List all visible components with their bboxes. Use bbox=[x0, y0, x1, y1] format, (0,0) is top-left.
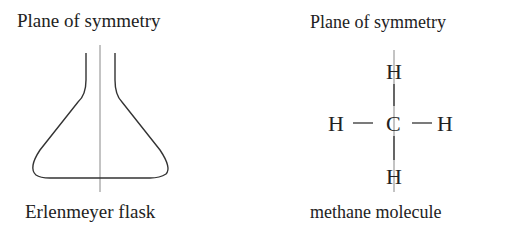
right-title: Plane of symmetry bbox=[310, 13, 446, 31]
atom-c-center: C bbox=[386, 113, 401, 135]
left-caption: Erlenmeyer flask bbox=[25, 202, 155, 221]
flask-diagram bbox=[0, 0, 505, 230]
atom-h-right: H bbox=[437, 113, 453, 135]
right-caption: methane molecule bbox=[310, 203, 441, 221]
atom-h-left: H bbox=[328, 113, 344, 135]
atom-h-bottom: H bbox=[386, 166, 402, 188]
atom-h-top: H bbox=[386, 61, 402, 83]
